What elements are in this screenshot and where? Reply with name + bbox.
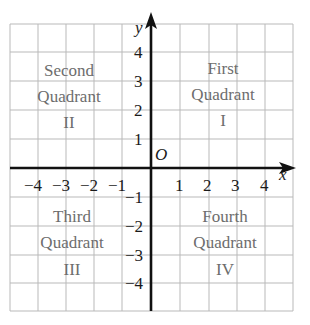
x-tick-label: −2 — [80, 176, 98, 195]
origin-label: O — [155, 145, 167, 164]
y-tick-label: −4 — [125, 274, 144, 293]
x-tick-label: 3 — [231, 176, 240, 195]
quadrant-numeral: III — [64, 260, 81, 279]
x-tick-label: −1 — [108, 176, 126, 195]
y-tick-label: 3 — [134, 72, 143, 91]
quadrant-name: Fourth — [202, 207, 248, 226]
x-tick-label: −4 — [24, 176, 43, 195]
y-tick-label: 4 — [134, 43, 143, 62]
x-tick-label: 2 — [203, 176, 212, 195]
y-tick-label: 1 — [134, 130, 143, 149]
coordinate-plane: y x O 4 3 2 1 −1 −2 −3 −4 −4 −3 −2 −1 1 … — [0, 0, 310, 325]
x-tick-labels: −4 −3 −2 −1 1 2 3 4 — [24, 176, 269, 195]
y-tick-label: −2 — [125, 217, 143, 236]
quadrant-label-second: Second Quadrant II — [37, 61, 101, 132]
quadrant-word: Quadrant — [193, 233, 257, 252]
x-tick-label: 4 — [260, 176, 269, 195]
quadrant-word: Quadrant — [40, 233, 104, 252]
y-tick-label: −3 — [125, 246, 143, 265]
x-tick-label: −3 — [52, 176, 70, 195]
quadrant-name: Third — [53, 207, 91, 226]
quadrant-numeral: II — [63, 113, 75, 132]
x-axis-label: x — [278, 165, 287, 184]
quadrant-label-first: First Quadrant I — [191, 59, 255, 130]
quadrant-name: First — [207, 59, 238, 78]
y-axis-label: y — [133, 18, 143, 37]
quadrant-word: Quadrant — [191, 85, 255, 104]
quadrant-numeral: IV — [216, 260, 235, 279]
quadrant-numeral: I — [220, 111, 226, 130]
quadrant-name: Second — [44, 61, 95, 80]
y-tick-label: 2 — [134, 101, 143, 120]
x-axis — [10, 162, 296, 174]
x-tick-label: 1 — [175, 176, 184, 195]
quadrant-label-fourth: Fourth Quadrant IV — [193, 207, 257, 279]
y-tick-label: −1 — [125, 188, 143, 207]
quadrant-word: Quadrant — [37, 87, 101, 106]
